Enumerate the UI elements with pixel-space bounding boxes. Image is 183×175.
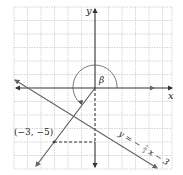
point-label: (−3, −5) bbox=[14, 127, 53, 137]
x-axis-label: x bbox=[168, 90, 174, 101]
angle-beta-label: β bbox=[98, 75, 104, 85]
fraction-denominator: 3 bbox=[141, 149, 146, 155]
svg-text:y = −: y = − bbox=[116, 128, 143, 150]
coordinate-graph: y x β (−3, −5) y = − 2 3 x − 3 bbox=[0, 0, 183, 175]
y-axis-label: y bbox=[85, 5, 92, 16]
equation-prefix: y = − bbox=[116, 128, 143, 150]
point-neg3-neg5 bbox=[53, 141, 56, 144]
x-axis-mid-arrow bbox=[150, 86, 155, 91]
